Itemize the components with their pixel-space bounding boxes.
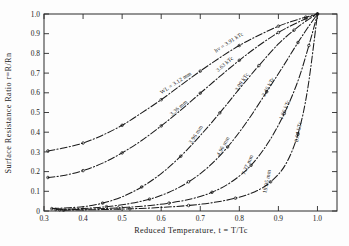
x-tick-label: 0.8 <box>235 214 245 223</box>
curve-line <box>56 14 318 209</box>
x-tick-label: 0.5 <box>118 214 128 223</box>
curve-label: 0.64 kTc <box>293 121 303 143</box>
y-tick-label: 0.3 <box>31 148 41 157</box>
curve-label: hv = 3.91 kTc <box>213 30 244 53</box>
y-tick-label: 0.9 <box>31 29 41 38</box>
y-tick-label: 0.4 <box>31 128 41 137</box>
y-tick-label: 0.2 <box>31 167 41 176</box>
y-tick-label: 0.6 <box>31 88 41 97</box>
curve-label: 1.66 kTc <box>278 99 292 121</box>
curve-label: WL = 3.12 mm <box>159 70 193 95</box>
chart-svg: 0.30.40.50.60.70.80.91.000.10.20.30.40.5… <box>0 0 349 246</box>
x-tick-label: 0.7 <box>196 214 206 223</box>
axis-ticks <box>44 14 337 211</box>
curve-labels: WL = 3.12 mmhv = 3.91 kTc3.36 mm3.63 kTc… <box>159 30 303 193</box>
y-tick-label: 0.7 <box>31 69 41 78</box>
x-tick-label: 0.6 <box>157 214 167 223</box>
y-axis-title: Surface Resistance Ratio r=R/Rn <box>4 53 13 174</box>
data-point <box>187 181 190 184</box>
y-tick-label: 0 <box>36 207 40 216</box>
curve-label: 3.36 mm <box>169 98 189 117</box>
x-tick-label: 1.0 <box>313 214 323 223</box>
curve-label: 2.46 kTc <box>260 76 275 97</box>
y-tick-label: 0.8 <box>31 49 41 58</box>
curve-line <box>52 14 318 209</box>
curve-line <box>48 14 318 151</box>
curve-label: 3.09 kTc <box>233 71 250 92</box>
curve-label: 3.63 kTc <box>215 55 235 73</box>
curve-line <box>48 14 318 178</box>
y-tick-label: 0.1 <box>31 187 41 196</box>
plot-frame <box>44 14 337 211</box>
x-tick-label: 0.3 <box>39 214 49 223</box>
x-tick-label: 0.9 <box>274 214 284 223</box>
x-axis-title: Reduced Temperature, t = T/Tc <box>134 226 248 235</box>
data-markers <box>47 13 319 212</box>
y-tick-label: 0.5 <box>31 108 41 117</box>
data-point <box>258 64 261 67</box>
y-tick-label: 1.0 <box>31 10 41 19</box>
curve-label: 19.05 mm <box>261 169 272 194</box>
data-curves <box>48 14 318 210</box>
x-tick-label: 0.4 <box>78 214 88 223</box>
figure-root: 0.30.40.50.60.70.80.91.000.10.20.30.40.5… <box>0 0 349 246</box>
